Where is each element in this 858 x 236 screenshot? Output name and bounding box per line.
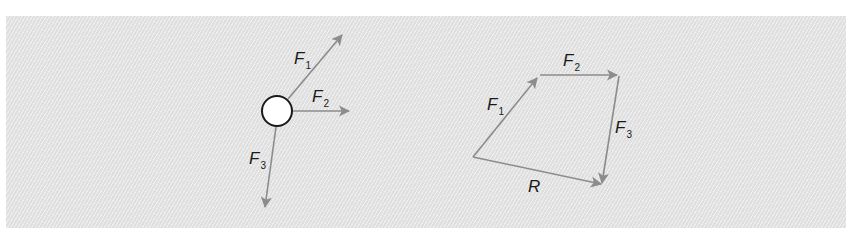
- label-f3-polygon: F3: [615, 119, 632, 136]
- label-f1-free-body: F1: [294, 50, 311, 67]
- label-f2-free-body: F2: [312, 88, 329, 105]
- body-circle: [262, 96, 292, 126]
- label-f2-polygon: F2: [563, 52, 580, 69]
- label-f3-free-body: F3: [249, 150, 266, 167]
- vector-polygon: [473, 75, 619, 184]
- force-diagram: [0, 0, 858, 236]
- vector-arrow-f1: [473, 78, 537, 157]
- force-arrow-f3: [265, 127, 276, 207]
- label-resultant: R: [528, 178, 540, 195]
- figure-canvas: F1 F2 F3 F1 F2 F3 R: [0, 0, 858, 236]
- label-f1-polygon: F1: [487, 96, 504, 113]
